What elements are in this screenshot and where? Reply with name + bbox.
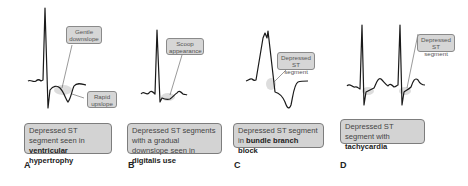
caption-a-text: Depressed ST segment seen in [29, 126, 85, 145]
panel-label-d: D [340, 160, 347, 170]
caption-b: Depressed ST segments with a gradual dow… [127, 123, 222, 154]
callout-scoop-appearance: Scoop appearance [166, 38, 204, 55]
panel-label-c: C [234, 160, 241, 170]
caption-b-text: Depressed ST segments with a gradual dow… [132, 126, 215, 155]
panel-label-b: B [128, 160, 135, 170]
caption-d: Depressed ST segment with tachycardia [340, 119, 425, 144]
callout-depressed-st-d: Depressed ST segment [417, 34, 455, 52]
caption-b-bold: digitalis use [132, 156, 176, 165]
caption-d-bold: tachycardia [345, 142, 387, 151]
callout-rapid-upslope: Rapid upslope [87, 91, 117, 108]
caption-a: Depressed ST segment seen in ventricular… [24, 123, 112, 154]
callout-gentle-downslope: Gentle downslope [66, 26, 102, 44]
callout-depressed-st-c: Depressed ST segment [277, 52, 315, 70]
caption-c: Depressed ST segment in bundle branch bl… [233, 123, 324, 148]
panel-label-a: A [24, 160, 31, 170]
ecg-trace-d [347, 25, 425, 105]
caption-d-text: Depressed ST segment with [345, 122, 393, 141]
caption-a-bold: ventricular hypertrophy [29, 146, 73, 165]
